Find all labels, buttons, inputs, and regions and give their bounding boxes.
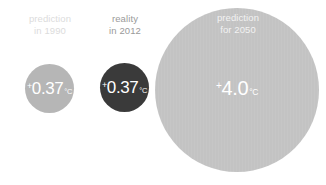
caption-line-primary: reality: [100, 13, 150, 25]
caption-line-primary: prediction: [193, 12, 283, 24]
value-reality-2012: +0.37°C: [102, 79, 147, 96]
value-prediction-2050: +4.0°C: [216, 78, 258, 98]
caption-prediction-1990: prediction in 1990: [10, 13, 90, 36]
temperature-bubble-chart: +0.37°C prediction in 1990 +0.37°C reali…: [0, 0, 326, 185]
bubble-reality-2012: +0.37°C: [100, 63, 149, 112]
value-number: 0.37: [107, 79, 139, 96]
value-unit: °C: [64, 88, 72, 96]
bubble-prediction-1990: +0.37°C: [25, 64, 74, 113]
caption-line-secondary: for 2050: [193, 24, 283, 36]
caption-line-secondary: in 1990: [10, 25, 90, 37]
value-unit: °C: [139, 87, 147, 95]
value-number: 0.37: [32, 80, 64, 97]
caption-prediction-2050: prediction for 2050: [193, 12, 283, 35]
caption-line-primary: prediction: [10, 13, 90, 25]
caption-line-secondary: in 2012: [100, 25, 150, 37]
value-unit: °C: [249, 88, 258, 97]
value-prediction-1990: +0.37°C: [27, 80, 72, 97]
caption-reality-2012: reality in 2012: [100, 13, 150, 36]
value-number: 4.0: [222, 78, 249, 98]
